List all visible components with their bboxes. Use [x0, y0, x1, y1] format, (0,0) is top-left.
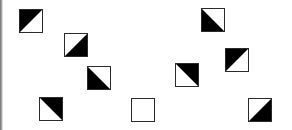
tile-8-top-right[interactable] [175, 63, 199, 87]
tile-4-top-right[interactable] [39, 97, 63, 121]
tile-6-bottom-left[interactable] [201, 8, 225, 32]
half-triangle-icon [176, 64, 198, 86]
half-triangle-icon [65, 34, 87, 56]
half-triangle-icon [40, 98, 62, 120]
half-triangle-icon [226, 49, 248, 71]
half-triangle-icon [202, 9, 224, 31]
tile-2-bottom-right[interactable] [64, 33, 88, 57]
half-triangle-icon [20, 10, 42, 32]
blank-square-icon [132, 99, 154, 121]
tile-1-top-left[interactable] [19, 9, 43, 33]
half-triangle-icon [88, 67, 110, 89]
tile-9-bottom-right[interactable] [248, 98, 272, 122]
half-triangle-icon [249, 99, 271, 121]
tile-3-bottom-left[interactable] [87, 66, 111, 90]
tile-7-top-left[interactable] [225, 48, 249, 72]
puzzle-board [0, 0, 292, 130]
tile-5-blank[interactable] [131, 98, 155, 122]
